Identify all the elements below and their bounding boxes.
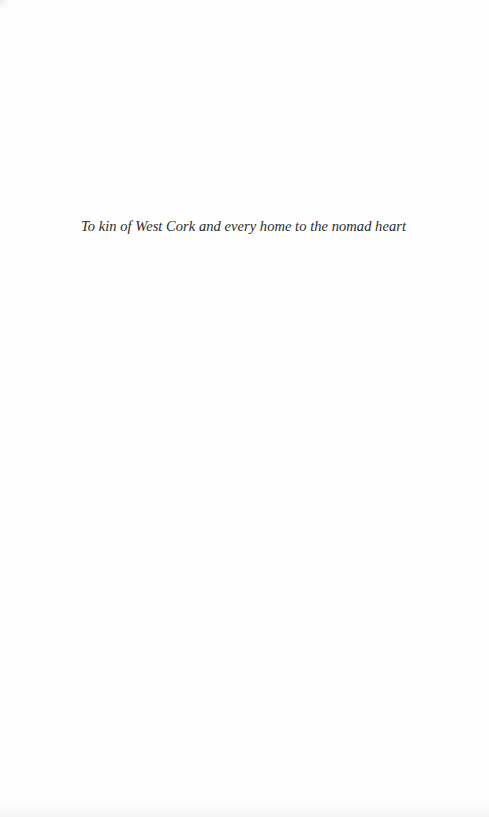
book-page: To kin of West Cork and every home to th… xyxy=(0,0,489,817)
scan-corner-shadow xyxy=(0,0,10,12)
dedication-text: To kin of West Cork and every home to th… xyxy=(0,218,489,235)
scan-bottom-edge xyxy=(0,803,489,817)
